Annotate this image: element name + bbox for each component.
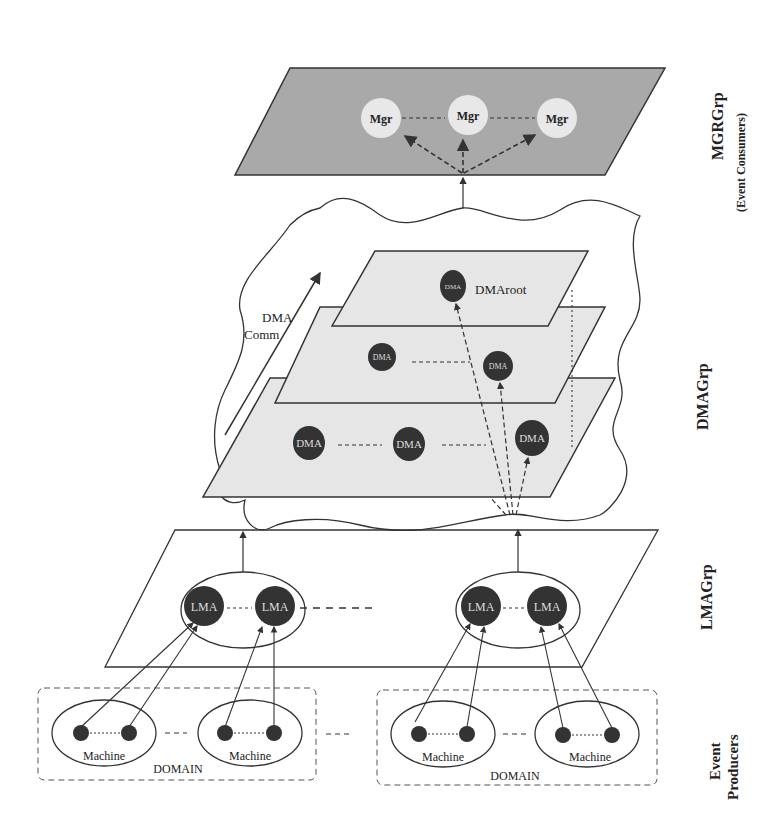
svg-text:LMA: LMA: [468, 600, 495, 614]
mgr-node: Mgr: [448, 95, 488, 135]
machine-label: Machine: [569, 750, 611, 764]
producers-label-line1: Event: [707, 742, 723, 780]
mgr-node: Mgr: [361, 98, 401, 138]
dma-node: DMA: [393, 427, 425, 461]
svg-text:LMA: LMA: [191, 600, 218, 614]
svg-text:DMA: DMA: [296, 437, 322, 449]
lma-node: LMA: [461, 586, 501, 626]
mgr-layer-sublabel: (Event Consumers): [734, 113, 748, 212]
svg-text:Mgr: Mgr: [546, 112, 569, 126]
producers-label-line2: Producers: [725, 734, 741, 800]
domain-label: DOMAIN: [153, 762, 203, 776]
dma-comm-label-line1: DMA: [262, 310, 293, 325]
svg-text:DMA: DMA: [373, 353, 392, 362]
producers-layer: Machine Machine DOMAIN Machine Machine D…: [38, 623, 741, 800]
dma-node: DMA: [515, 420, 549, 456]
svg-text:DMA: DMA: [489, 362, 508, 371]
dma-root-label: DMAroot: [475, 282, 527, 297]
svg-text:Mgr: Mgr: [457, 109, 480, 123]
lma-node: LMA: [184, 586, 224, 626]
machine-label: Machine: [83, 749, 125, 763]
svg-text:LMA: LMA: [262, 600, 289, 614]
dma-node: DMA: [368, 343, 396, 371]
dma-layer-label: DMAGrp: [694, 363, 712, 430]
machine-label: Machine: [422, 750, 464, 764]
lma-layer-label: LMAGrp: [698, 564, 716, 630]
system-architecture-diagram: Mgr Mgr Mgr MGRGrp (Event Consumers): [0, 0, 771, 829]
lma-node: LMA: [255, 586, 295, 626]
svg-text:DMA: DMA: [519, 432, 545, 444]
dma-root-node: DMA: [440, 270, 466, 302]
mgr-layer-label: MGRGrp: [709, 92, 727, 160]
machine-label: Machine: [229, 749, 271, 763]
svg-text:LMA: LMA: [534, 600, 561, 614]
svg-text:DMA: DMA: [445, 283, 461, 291]
dma-node: DMA: [483, 351, 513, 381]
mgr-node: Mgr: [537, 98, 577, 138]
lma-node: LMA: [527, 586, 567, 626]
svg-text:Mgr: Mgr: [370, 112, 393, 126]
dma-layer: DMA DMAroot DMA DMA DMA DMA DMA: [203, 198, 712, 530]
domain-label: DOMAIN: [490, 769, 540, 783]
dma-comm-label-line2: Comm: [244, 327, 279, 342]
svg-text:DMA: DMA: [396, 438, 422, 450]
mgr-layer: Mgr Mgr Mgr MGRGrp (Event Consumers): [235, 68, 748, 212]
dma-node: DMA: [293, 426, 325, 460]
